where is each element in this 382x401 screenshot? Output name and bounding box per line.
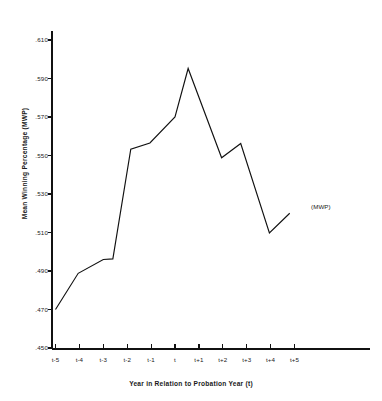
y-axis-tick-label: .490 bbox=[14, 267, 48, 274]
chart-axes bbox=[52, 31, 370, 349]
y-axis-tick-label: .530 bbox=[14, 190, 48, 197]
x-axis-tick-label: t+5 bbox=[281, 356, 309, 363]
y-axis-tick-label: .510 bbox=[14, 229, 48, 236]
y-axis-title: Mean Winning Percentage (MWP) bbox=[21, 84, 28, 244]
data-line-mwp bbox=[56, 68, 290, 309]
y-axis-tick-label: .610 bbox=[14, 36, 48, 43]
y-axis-tick-label: .470 bbox=[14, 306, 48, 313]
y-axis-tick-label: .570 bbox=[14, 113, 48, 120]
y-axis-tick-label: .550 bbox=[14, 152, 48, 159]
data-series-group bbox=[56, 68, 290, 309]
series-annotation-mwp: (MWP) bbox=[311, 203, 331, 210]
x-axis-title: Year in Relation to Probation Year (t) bbox=[0, 380, 382, 387]
y-axis-tick-label: .590 bbox=[14, 75, 48, 82]
y-axis-tick-label: .450 bbox=[14, 344, 48, 351]
chart-figure: .610.590.570.550.530.510.490.470.450 t-5… bbox=[0, 0, 382, 401]
line-chart-plot bbox=[0, 0, 382, 401]
